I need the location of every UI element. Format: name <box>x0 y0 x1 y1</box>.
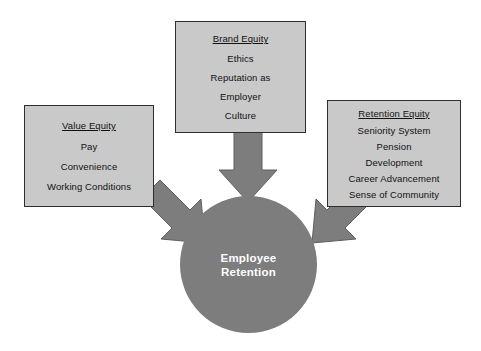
employee-retention-node: Employee Retention <box>180 196 317 333</box>
retention-equity-box: Retention Equity Seniority System Pensio… <box>327 100 461 207</box>
employee-retention-label: Employee Retention <box>221 251 277 279</box>
employee-retention-label-line-1: Employee <box>221 252 277 264</box>
brand-equity-item-2: Employer <box>220 91 261 102</box>
value-equity-item-1: Convenience <box>61 161 118 172</box>
brand-equity-item-3: Culture <box>225 110 256 121</box>
value-equity-item-2: Working Conditions <box>47 181 131 192</box>
retention-equity-item-2: Development <box>365 157 422 168</box>
value-equity-title: Value Equity <box>62 120 116 131</box>
retention-equity-item-3: Career Advancement <box>348 173 439 184</box>
retention-equity-title: Retention Equity <box>358 108 429 119</box>
brand-equity-lines: Brand Equity Ethics Reputation as Employ… <box>176 33 305 121</box>
retention-equity-item-4: Sense of Community <box>349 189 439 200</box>
diagram-canvas: Value Equity Pay Convenience Working Con… <box>0 0 481 351</box>
value-equity-item-0: Pay <box>81 141 98 152</box>
retention-equity-item-1: Pension <box>376 141 411 152</box>
retention-equity-item-0: Seniority System <box>358 125 431 136</box>
brand-equity-item-0: Ethics <box>227 53 253 64</box>
retention-equity-lines: Retention Equity Seniority System Pensio… <box>328 108 460 200</box>
brand-equity-title: Brand Equity <box>213 33 269 44</box>
brand-equity-box: Brand Equity Ethics Reputation as Employ… <box>175 21 306 133</box>
brand-equity-item-1: Reputation as <box>211 72 271 83</box>
employee-retention-label-line-2: Retention <box>221 266 276 278</box>
value-equity-box: Value Equity Pay Convenience Working Con… <box>24 105 154 207</box>
value-equity-lines: Value Equity Pay Convenience Working Con… <box>25 120 153 192</box>
